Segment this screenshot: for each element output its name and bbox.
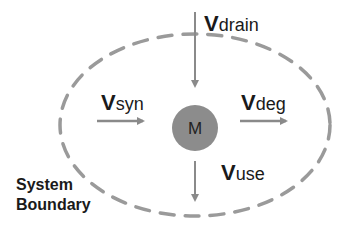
- flux-subscript: drain: [219, 15, 259, 35]
- flux-label-syn: Vsyn: [101, 90, 144, 115]
- flux-label-use: Vuse: [221, 160, 265, 185]
- boundary-label-line1: System: [16, 176, 73, 193]
- flux-subscript: syn: [116, 94, 144, 114]
- flux-symbol: V: [101, 90, 116, 115]
- flux-label-deg: Vdeg: [241, 90, 286, 115]
- flux-subscript: deg: [256, 94, 286, 114]
- metabolite-label: M: [188, 119, 202, 138]
- flux-label-drain: Vdrain: [204, 11, 259, 36]
- system-diagram: M Vdrain Vsyn Vdeg Vuse System Boundary: [0, 0, 346, 228]
- boundary-label-line2: Boundary: [16, 196, 91, 213]
- flux-symbol: V: [204, 11, 219, 36]
- flux-symbol: V: [221, 160, 236, 185]
- flux-subscript: use: [236, 164, 265, 184]
- flux-symbol: V: [241, 90, 256, 115]
